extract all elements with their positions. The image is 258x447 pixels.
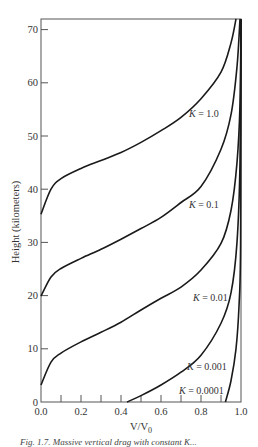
y-tick-label: 50 bbox=[28, 131, 39, 142]
x-tick-label: 0.0 bbox=[34, 406, 47, 417]
x-tick-label: 0.6 bbox=[154, 406, 167, 417]
x-axis-title: V/V0 bbox=[130, 421, 152, 435]
curve-label: K = 0.001 bbox=[186, 361, 227, 372]
y-tick-label: 10 bbox=[28, 343, 39, 354]
y-tick-label: 70 bbox=[28, 24, 39, 35]
y-tick-label: 40 bbox=[28, 184, 39, 195]
chart: 010203040506070 0.00.20.40.60.81.0 K = 1… bbox=[0, 0, 258, 447]
y-axis-title: Height (kilometers) bbox=[10, 180, 22, 263]
curve-label: K = 0.0001 bbox=[178, 385, 224, 396]
y-tick-label: 60 bbox=[28, 77, 39, 88]
y-tick-label: 20 bbox=[28, 290, 39, 301]
x-tick-label: 0.4 bbox=[114, 406, 128, 417]
curves bbox=[41, 19, 241, 402]
plot-frame bbox=[41, 19, 241, 402]
curve-label: K = 1.0 bbox=[188, 108, 219, 119]
x-tick-label: 1.0 bbox=[234, 406, 247, 417]
x-tick-label: 0.8 bbox=[194, 406, 207, 417]
curve-line bbox=[41, 19, 240, 296]
x-axis-ticks: 0.00.20.40.60.81.0 bbox=[34, 395, 247, 417]
curve-label: K = 0.1 bbox=[188, 199, 219, 210]
y-tick-label: 30 bbox=[28, 237, 39, 248]
figure-caption: Fig. 1.7. Massive vertical drag with con… bbox=[20, 437, 258, 447]
x-tick-label: 0.2 bbox=[74, 406, 87, 417]
y-axis-ticks: 010203040506070 bbox=[28, 24, 49, 407]
curve-line bbox=[127, 19, 241, 402]
curve-label: K = 0.01 bbox=[192, 292, 228, 303]
